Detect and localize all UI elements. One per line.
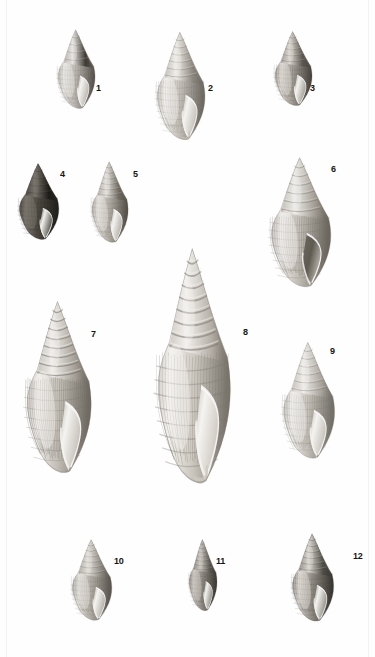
specimen-shell-2 bbox=[152, 30, 210, 143]
specimen-shell-3 bbox=[271, 30, 316, 108]
specimen-shell-7 bbox=[20, 298, 98, 478]
specimen-shell-5 bbox=[88, 160, 132, 245]
specimen-number-label-12: 12 bbox=[353, 552, 363, 561]
specimen-number-label-3: 3 bbox=[310, 84, 315, 93]
specimen-number-label-10: 10 bbox=[114, 557, 124, 566]
specimen-shell-6 bbox=[265, 155, 337, 291]
specimen-number-label-2: 2 bbox=[208, 84, 213, 93]
specimen-shell-4 bbox=[15, 162, 63, 242]
specimen-shell-8 bbox=[150, 244, 238, 490]
specimen-number-label-9: 9 bbox=[330, 347, 335, 356]
specimen-shell-11 bbox=[186, 538, 220, 613]
illustration-plate: 123456789101112 bbox=[0, 0, 375, 657]
specimen-number-label-4: 4 bbox=[60, 170, 65, 179]
specimen-shell-12 bbox=[288, 532, 338, 624]
specimen-shell-1 bbox=[54, 28, 99, 111]
specimen-shell-9 bbox=[278, 340, 340, 462]
specimen-number-label-5: 5 bbox=[133, 170, 138, 179]
specimen-number-label-7: 7 bbox=[91, 330, 96, 339]
specimen-number-label-11: 11 bbox=[216, 557, 225, 566]
plate-border-left-line bbox=[6, 0, 7, 657]
specimen-number-label-8: 8 bbox=[243, 328, 248, 337]
specimen-number-label-6: 6 bbox=[331, 165, 336, 174]
specimen-number-label-1: 1 bbox=[96, 84, 101, 93]
specimen-shell-10 bbox=[68, 538, 116, 623]
plate-border-right-line bbox=[368, 0, 369, 657]
